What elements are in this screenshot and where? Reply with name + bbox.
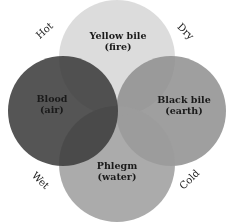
- quality-wet: Wet: [30, 170, 52, 192]
- label-yellow-bile-name: Yellow bile: [89, 30, 147, 41]
- humours-diagram: Yellow bile (fire) Blood (air) Black bil…: [0, 0, 234, 224]
- label-phlegm-name: Phlegm: [97, 160, 137, 171]
- label-blood-element: (air): [40, 104, 64, 115]
- quality-cold: Cold: [177, 167, 202, 192]
- quality-dry: Dry: [175, 21, 196, 42]
- label-yellow-bile-element: (fire): [105, 41, 132, 52]
- label-blood-name: Blood: [37, 93, 68, 104]
- quality-hot: Hot: [34, 20, 55, 41]
- label-black-bile-element: (earth): [165, 105, 203, 116]
- label-phlegm-element: (water): [98, 171, 137, 182]
- label-black-bile-name: Black bile: [157, 94, 210, 105]
